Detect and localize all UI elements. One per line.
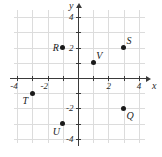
data-point	[121, 106, 126, 111]
data-point	[121, 45, 126, 50]
data-point	[30, 91, 35, 96]
data-point-label: V	[96, 51, 102, 61]
data-point-label: R	[53, 43, 59, 53]
data-point-label: S	[127, 36, 132, 46]
coordinate-plane-figure: -4-22442-2-4xy RSVTUQ	[0, 0, 162, 157]
data-point-label: Q	[127, 111, 134, 121]
data-point	[60, 121, 65, 126]
data-point	[91, 60, 96, 65]
data-point-label: T	[22, 96, 28, 106]
data-point-label: U	[53, 127, 60, 137]
data-point	[60, 45, 65, 50]
points-layer: RSVTUQ	[0, 0, 162, 157]
